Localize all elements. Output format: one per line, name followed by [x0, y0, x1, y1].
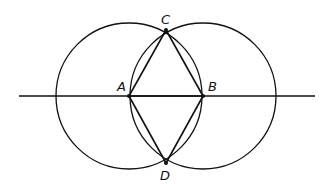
segment-DA	[129, 96, 166, 163]
label-A: A	[116, 79, 126, 94]
segment-BD	[166, 96, 203, 163]
point-C	[164, 28, 168, 32]
segment-AC	[129, 30, 166, 96]
label-C: C	[161, 12, 171, 27]
label-D: D	[160, 168, 170, 183]
point-B	[201, 94, 205, 98]
geometry-diagram: ABCD	[0, 0, 328, 190]
rhombus-segments	[129, 30, 203, 163]
label-B: B	[208, 79, 217, 94]
point-D	[164, 161, 168, 165]
point-A	[127, 94, 131, 98]
segment-CB	[166, 30, 203, 96]
